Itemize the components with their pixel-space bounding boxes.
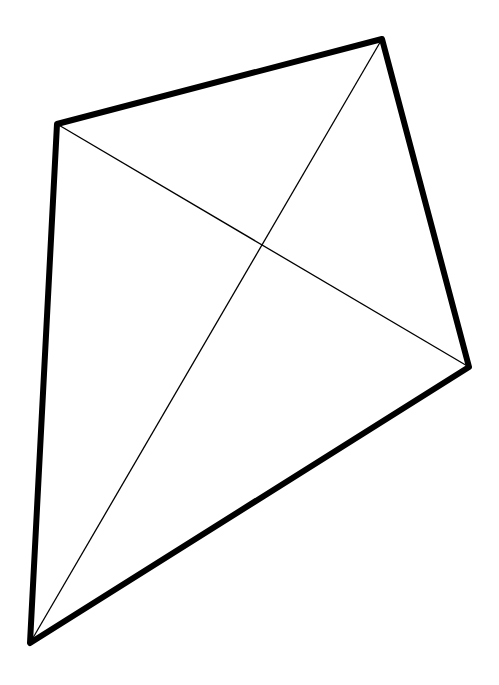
kite-diagram (0, 0, 499, 685)
diagonal-bd (30, 39, 382, 643)
diagonal-ac (57, 124, 469, 367)
kite-outline (30, 39, 469, 643)
